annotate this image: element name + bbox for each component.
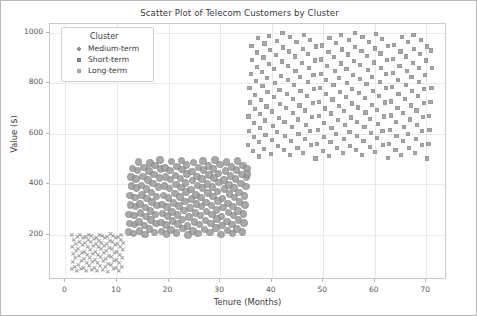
- data-point: [401, 139, 405, 143]
- data-point: [279, 74, 283, 78]
- y-tick-label: 200: [9, 229, 43, 238]
- legend-item-medium-term[interactable]: Medium-term: [62, 43, 153, 54]
- legend-item-short-term[interactable]: Short-term: [62, 54, 153, 65]
- data-point: [301, 151, 305, 155]
- data-point: [324, 92, 328, 96]
- data-point: [311, 73, 315, 77]
- x-tick-mark: [425, 279, 426, 282]
- data-point: [249, 72, 253, 76]
- data-point: [263, 118, 267, 122]
- data-point: [334, 41, 338, 45]
- data-point: [246, 114, 250, 118]
- x-tick-label: 30: [204, 285, 234, 294]
- data-point: [239, 228, 247, 236]
- data-point: [259, 98, 263, 102]
- data-point: [248, 100, 252, 104]
- data-point: [409, 75, 413, 79]
- data-point: [311, 101, 315, 105]
- plot-area: ××××××××××××××××××××××××××××××××××××××××…: [49, 23, 446, 279]
- data-point: [272, 95, 276, 99]
- data-point: [347, 38, 351, 42]
- data-point: [240, 219, 248, 227]
- data-point: [322, 135, 326, 139]
- data-point: [411, 61, 415, 65]
- data-point: [312, 87, 316, 91]
- data-point: [343, 123, 347, 127]
- data-point: [373, 150, 377, 154]
- data-point: [256, 36, 260, 40]
- data-point: [391, 71, 395, 75]
- data-point: [285, 92, 289, 96]
- data-point: [363, 96, 367, 100]
- data-point: [281, 45, 285, 49]
- data-point: [344, 95, 348, 99]
- data-point: [331, 83, 335, 87]
- data-point: [257, 140, 261, 144]
- data-point: [258, 112, 262, 116]
- data-point: [384, 86, 388, 90]
- data-point: [280, 31, 284, 35]
- data-point: [406, 132, 410, 136]
- x-tick-label: 10: [101, 285, 131, 294]
- data-point: [333, 69, 337, 73]
- data-point: [364, 82, 368, 86]
- data-point: [342, 109, 346, 113]
- data-point: [429, 86, 433, 90]
- data-point: [345, 81, 349, 85]
- data-point: ×: [119, 255, 126, 262]
- data-point: [320, 43, 324, 47]
- data-point: [415, 123, 419, 127]
- y-tick-mark: [46, 82, 49, 83]
- data-point: [361, 139, 365, 143]
- data-point: [396, 78, 400, 82]
- gridline-vertical: [220, 24, 221, 278]
- data-point: [427, 114, 431, 118]
- data-point: [287, 49, 291, 53]
- data-point: [270, 109, 274, 113]
- data-point: [247, 129, 251, 133]
- y-tick-mark: [46, 32, 49, 33]
- chart-title: Scatter Plot of Telecom Customers by Clu…: [1, 8, 477, 18]
- data-point: [389, 99, 393, 103]
- y-tick-mark: [46, 234, 49, 235]
- data-point: [426, 142, 430, 146]
- data-point: [309, 143, 313, 147]
- legend-label: Short-term: [88, 55, 129, 64]
- data-point: [300, 61, 304, 65]
- data-point: [257, 154, 261, 158]
- x-tick-label: 50: [307, 285, 337, 294]
- data-point: [428, 100, 432, 104]
- data-point: [294, 40, 298, 44]
- data-point: [242, 183, 250, 191]
- data-point: [354, 148, 358, 152]
- data-point: [360, 35, 364, 39]
- data-point: [378, 51, 382, 55]
- data-point: [277, 88, 281, 92]
- data-point: [374, 32, 378, 36]
- data-point: [350, 87, 354, 91]
- x-tick-label: 40: [256, 285, 286, 294]
- data-point: [303, 108, 307, 112]
- data-point: [351, 73, 355, 77]
- x-tick-mark: [219, 279, 220, 282]
- data-point: [373, 46, 377, 50]
- data-point: [411, 33, 415, 37]
- data-point: [401, 111, 405, 115]
- legend-item-long-term[interactable]: Long-term: [62, 65, 153, 76]
- x-tick-label: 60: [359, 285, 389, 294]
- data-point: [261, 55, 265, 59]
- data-point: [271, 124, 275, 128]
- data-point: [379, 66, 383, 70]
- data-point: [328, 140, 332, 144]
- data-point: [368, 145, 372, 149]
- data-point: [424, 58, 428, 62]
- data-point: [291, 111, 295, 115]
- data-point: [321, 149, 325, 153]
- data-point: [419, 38, 423, 42]
- data-point: [288, 35, 292, 39]
- data-point: [298, 75, 302, 79]
- data-point: [289, 139, 293, 143]
- data-point: [346, 52, 350, 56]
- data-point: [370, 75, 374, 79]
- data-point: [404, 54, 408, 58]
